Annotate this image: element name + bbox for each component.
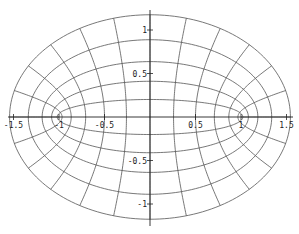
hyperbola-nu-300 xyxy=(196,117,221,206)
x-tick-label: 1.5 xyxy=(279,121,294,130)
hyperbola-nu-105 xyxy=(114,18,127,117)
hyperbola-nu-240 xyxy=(80,117,105,206)
axes xyxy=(8,10,293,226)
y-tick-label: -0.5 xyxy=(128,157,147,166)
tick-labels: -1.5-1-0.50.511.510.5-0.5-1 xyxy=(4,26,294,209)
x-tick-label: 1 xyxy=(239,121,244,130)
y-tick-label: -1 xyxy=(137,200,147,209)
x-tick-label: 0.5 xyxy=(188,121,203,130)
hyperbola-nu-75 xyxy=(174,18,187,117)
x-tick-label: -1.5 xyxy=(4,121,23,130)
x-tick-label: -1 xyxy=(54,121,64,130)
y-tick-label: 1 xyxy=(142,26,147,35)
x-tick-label: -0.5 xyxy=(95,121,114,130)
hyperbola-nu-255 xyxy=(114,117,127,216)
hyperbola-nu-60 xyxy=(196,28,221,117)
hyperbola-nu-285 xyxy=(174,117,187,216)
y-tick-label: 0.5 xyxy=(133,70,148,79)
hyperbola-nu-165 xyxy=(14,91,62,117)
hyperbola-nu-120 xyxy=(80,28,105,117)
hyperbola-nu-15 xyxy=(238,91,286,117)
elliptic-coordinates-plot: -1.5-1-0.50.511.510.5-0.5-1 xyxy=(0,0,299,234)
